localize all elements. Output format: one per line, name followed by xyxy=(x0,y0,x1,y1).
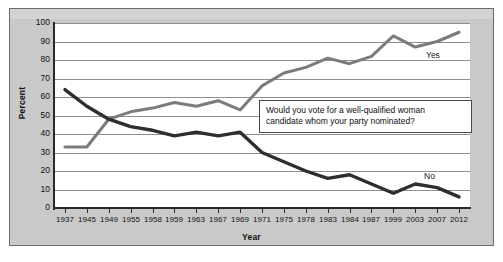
y-axis-tick-label: 60 xyxy=(24,92,50,101)
x-axis-tick xyxy=(218,209,219,213)
annotation-line-1: Would you vote for a well-qualified woma… xyxy=(266,105,465,116)
x-axis-tick xyxy=(174,209,175,213)
x-axis-tick xyxy=(393,209,394,213)
y-axis-tick-label: 0 xyxy=(24,203,50,212)
x-axis-tick-label: 2012 xyxy=(446,215,472,225)
x-axis-tick xyxy=(459,209,460,213)
x-axis-tick xyxy=(196,209,197,213)
x-axis-tick xyxy=(153,209,154,213)
series-label-no: No xyxy=(424,171,435,181)
x-axis-tick xyxy=(262,209,263,213)
y-axis-tick-label: 10 xyxy=(24,185,50,194)
panel-highlight-band xyxy=(10,9,493,19)
x-axis-tick xyxy=(109,209,110,213)
y-axis-tick-label: 50 xyxy=(24,111,50,120)
annotation-callout: Would you vote for a well-qualified woma… xyxy=(259,100,472,133)
x-axis-tick xyxy=(87,209,88,213)
y-axis-tick-label: 70 xyxy=(24,74,50,83)
y-axis-tick-label: 20 xyxy=(24,166,50,175)
y-axis-tick-label: 100 xyxy=(24,18,50,27)
x-axis-tick xyxy=(131,209,132,213)
x-axis-tick xyxy=(415,209,416,213)
chart-figure: 1009080706050403020100 Percent 193719451… xyxy=(0,0,503,262)
y-axis-title: Percent xyxy=(17,73,27,133)
x-axis-tick xyxy=(437,209,438,213)
x-axis-tick xyxy=(328,209,329,213)
x-axis-tick xyxy=(284,209,285,213)
y-axis-tick-label: 80 xyxy=(24,55,50,64)
x-axis-title: Year xyxy=(0,232,503,242)
y-axis-tick-label: 90 xyxy=(24,37,50,46)
x-axis-tick xyxy=(65,209,66,213)
x-axis-tick xyxy=(371,209,372,213)
x-axis-tick xyxy=(350,209,351,213)
series-label-yes: Yes xyxy=(426,50,440,60)
y-axis-tick-label: 40 xyxy=(24,129,50,138)
x-axis-tick xyxy=(306,209,307,213)
x-axis-tick xyxy=(240,209,241,213)
annotation-line-2: candidate whom your party nominated? xyxy=(266,116,465,127)
y-axis-tick-label: 30 xyxy=(24,148,50,157)
